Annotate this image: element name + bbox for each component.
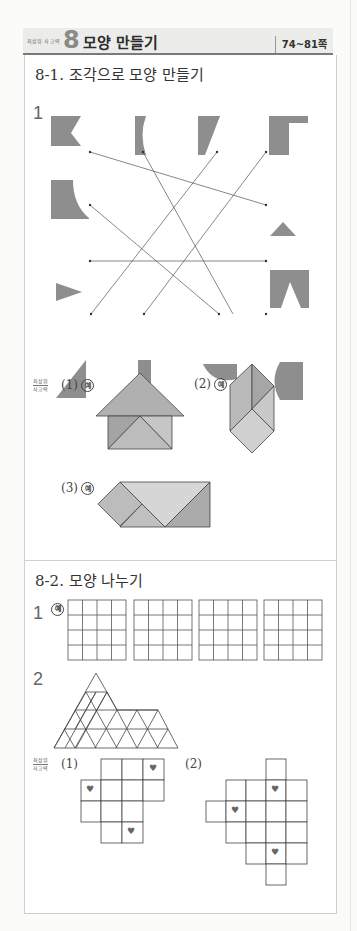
series-label: 최상위 사고력: [27, 37, 60, 44]
heart-icon: ♥: [271, 784, 279, 794]
section-8-2-panel: 8-2. 모양 나누기 1 예: [24, 560, 337, 914]
matching-dots: [89, 151, 267, 315]
top-trapezoid: [198, 116, 220, 155]
heart-icon: ♥: [271, 847, 279, 857]
grid-3: [199, 600, 257, 660]
tangram-answers: [25, 370, 336, 570]
chapter-header: 최상위 사고력 8 모양 만들기 74~81쪽: [23, 28, 333, 55]
heart-icon: ♥: [127, 826, 135, 836]
division-grids: [25, 599, 336, 669]
page-edge: [350, 0, 351, 931]
matching-lines: [90, 152, 266, 314]
tangram-pentagon: [98, 482, 210, 527]
grid-2: [134, 600, 192, 660]
right-triangle: [270, 222, 296, 236]
section-8-1-panel: 8-1. 조각으로 모양 만들기 1: [24, 55, 337, 561]
tangram-house: [96, 373, 184, 449]
heart-icon: ♥: [86, 784, 94, 794]
heart-icon: ♥: [149, 763, 157, 773]
grid-4: [264, 600, 322, 660]
heart-icon: ♥: [231, 805, 239, 815]
right-notched-rect: [270, 270, 309, 308]
matching-diagram: [25, 55, 336, 375]
triangle-figure: [25, 671, 336, 761]
left-triangle: [56, 283, 82, 301]
tangram-hexagon: [230, 364, 274, 453]
shape-pieces: [51, 116, 309, 400]
page-range: 74~81쪽: [275, 36, 327, 53]
top-l-block: [269, 116, 308, 155]
section-title: 8-2. 모양 나누기: [35, 569, 143, 590]
chapter-number: 8: [63, 28, 80, 53]
top-notched-square: [51, 116, 81, 146]
left-quarter-cut: [51, 180, 89, 219]
top-concave-bar: [135, 116, 146, 155]
chapter-title: 모양 만들기: [83, 31, 158, 52]
grid-1: [68, 600, 126, 660]
hearts-layer: ♥ ♥ ♥ ♥ ♥ ♥: [25, 759, 336, 889]
